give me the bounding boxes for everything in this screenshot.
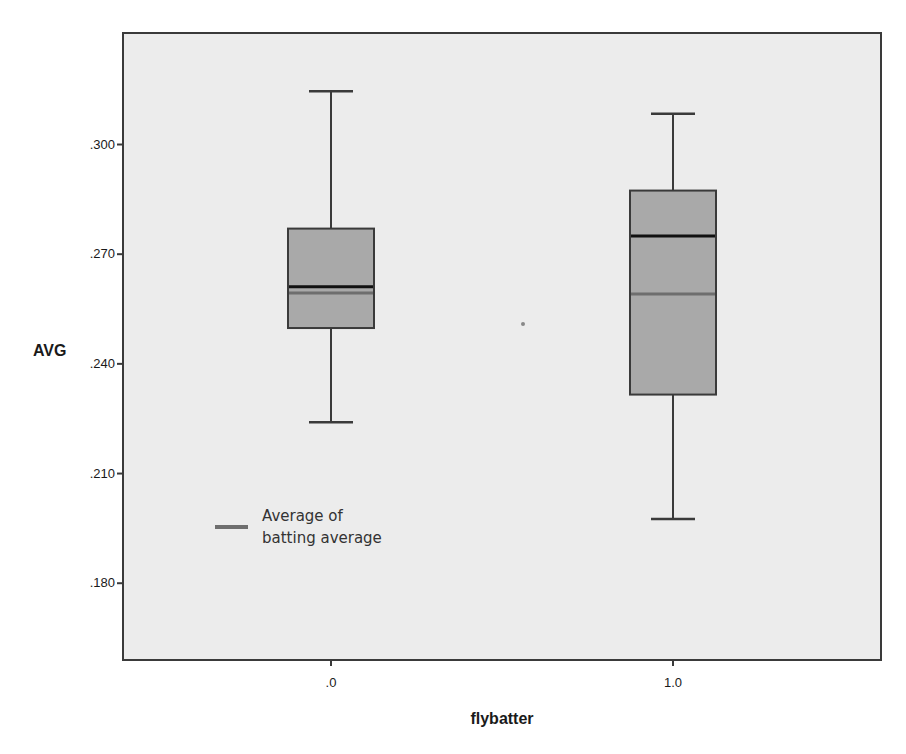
y-axis: .300.270.240.210.180	[90, 137, 123, 591]
chart-canvas: .300.270.240.210.180 .01.0 Average of ba…	[0, 0, 906, 754]
legend-label-line2: batting average	[262, 529, 382, 547]
legend-label-line1: Average of	[262, 507, 344, 525]
y-tick-label: .180	[90, 575, 115, 590]
plot-area	[123, 33, 881, 660]
iqr-box	[288, 229, 374, 328]
x-axis-title: flybatter	[470, 710, 533, 727]
boxplot-chart: .300.270.240.210.180 .01.0 Average of ba…	[0, 0, 906, 754]
x-axis: .01.0	[326, 660, 682, 690]
y-tick-label: .300	[90, 137, 115, 152]
y-tick-label: .240	[90, 356, 115, 371]
y-tick-label: .210	[90, 466, 115, 481]
x-tick-label: .0	[326, 675, 337, 690]
stray-marker	[521, 322, 525, 326]
x-tick-label: 1.0	[664, 675, 682, 690]
y-axis-title: AVG	[33, 342, 66, 359]
y-tick-label: .270	[90, 246, 115, 261]
